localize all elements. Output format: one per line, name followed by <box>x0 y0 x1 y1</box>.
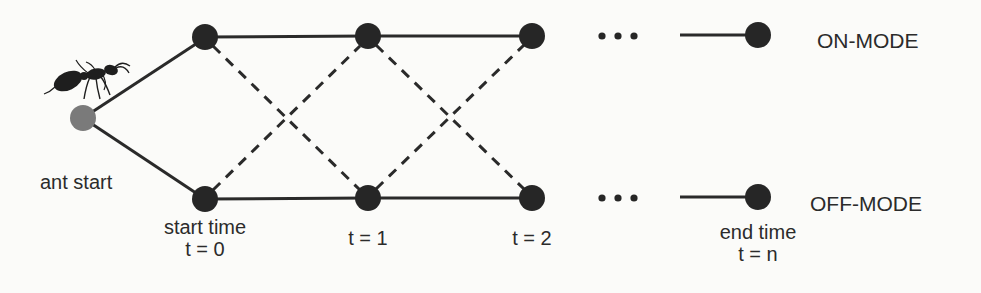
node-on-t0 <box>192 24 218 50</box>
ant-icon <box>44 60 130 99</box>
time-label-start-line2: t = 0 <box>185 238 224 260</box>
node-off-t0 <box>192 186 218 212</box>
node-off-t1 <box>355 185 381 211</box>
time-label-end-line2: t = n <box>738 243 777 265</box>
edge-off-0-1 <box>205 198 368 199</box>
state-nodes <box>192 22 771 212</box>
ellipsis-on <box>598 32 637 39</box>
edge-on-0-1 <box>205 36 368 37</box>
dashed-edges <box>213 45 524 190</box>
node-on-tn <box>745 22 771 48</box>
node-off-tn <box>745 184 771 210</box>
node-off-t2 <box>519 185 545 211</box>
time-label-t2: t = 2 <box>512 227 551 249</box>
solid-edges <box>205 35 758 199</box>
ellipsis-off <box>598 194 637 201</box>
start-node <box>70 105 96 131</box>
ant-mode-diagram: ant start start time t = 0 t = 1 t = 2 e… <box>0 0 981 293</box>
edge-switch-on0-off1 <box>213 46 360 190</box>
edge-switch-on1-off2 <box>376 45 524 189</box>
off-mode-label: OFF-MODE <box>810 192 922 215</box>
on-mode-label: ON-MODE <box>817 29 919 52</box>
ant-start-label: ant start <box>40 171 113 193</box>
time-label-start-line1: start time <box>164 216 246 238</box>
node-on-t1 <box>355 23 381 49</box>
edge-switch-off0-on1 <box>213 46 360 190</box>
diagram-canvas: ant start start time t = 0 t = 1 t = 2 e… <box>0 0 981 293</box>
node-on-t2 <box>519 23 545 49</box>
time-label-t1: t = 1 <box>348 227 387 249</box>
edge-switch-off1-on2 <box>376 45 524 189</box>
time-label-end-line1: end time <box>720 221 797 243</box>
